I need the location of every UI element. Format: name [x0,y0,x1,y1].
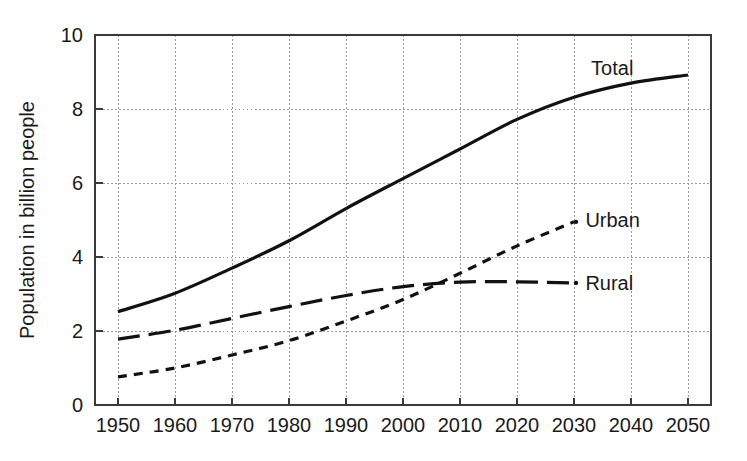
x-tick-label-1970: 1970 [210,414,255,436]
series-label-rural: Rural [585,272,633,294]
y-tick-label-10: 10 [61,24,83,46]
x-tick-label-2010: 2010 [438,414,483,436]
x-tick-label-1990: 1990 [324,414,369,436]
y-tick-label-0: 0 [72,394,83,416]
population-line-chart: 1950196019701980199020002010202020302040… [0,0,747,461]
x-tick-label-2040: 2040 [609,414,654,436]
y-tick-label-6: 6 [72,172,83,194]
y-tick-label-8: 8 [72,98,83,120]
x-tick-label-1980: 1980 [267,414,312,436]
x-axis-tick-labels: 1950196019701980199020002010202020302040… [96,414,711,436]
x-tick-label-2020: 2020 [495,414,540,436]
x-tick-label-1950: 1950 [96,414,141,436]
chart-page: 1950196019701980199020002010202020302040… [0,0,747,461]
x-tick-label-2000: 2000 [381,414,426,436]
series-endpoint-rural [574,281,578,285]
y-axis-title: Population in billion people [16,101,38,339]
x-tick-label-1960: 1960 [153,414,198,436]
x-tick-label-2050: 2050 [666,414,711,436]
series-endpoint-urban [574,220,578,224]
series-label-total: Total [591,57,633,79]
y-tick-label-2: 2 [72,320,83,342]
series-label-urban: Urban [585,209,639,231]
x-tick-label-2030: 2030 [552,414,597,436]
y-tick-label-4: 4 [72,246,83,268]
